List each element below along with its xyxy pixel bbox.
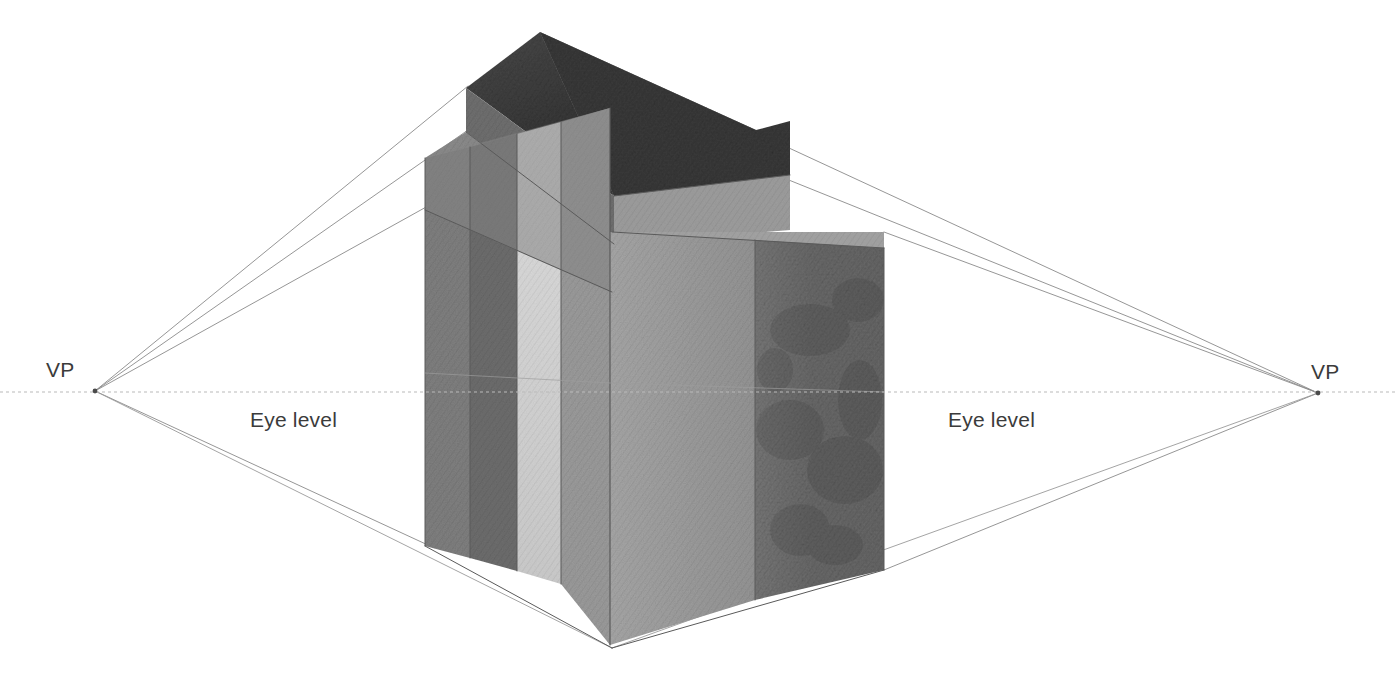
vp-label-right: VP	[1311, 360, 1340, 384]
construction-line-left-roof-upper	[95, 86, 468, 391]
construction-lines-left-vp	[95, 86, 468, 546]
building-massing	[425, 32, 884, 648]
perspective-drawing-canvas: VP VP Eye level Eye level	[0, 0, 1397, 700]
construction-line-left-roof-lower	[95, 130, 468, 391]
eye-level-label-left: Eye level	[250, 408, 337, 432]
construction-line-left-parapet	[95, 206, 428, 391]
vp-label-left: VP	[46, 358, 75, 382]
right-face-panel-6-dark	[755, 240, 884, 600]
vp-right-dot	[1316, 391, 1321, 396]
eye-level-label-right: Eye level	[948, 408, 1035, 432]
perspective-drawing-svg	[0, 0, 1397, 700]
vp-left-dot	[93, 389, 98, 394]
construction-line-right-parapet	[884, 232, 1318, 393]
right-face-panel-5	[610, 232, 755, 645]
